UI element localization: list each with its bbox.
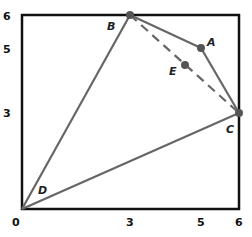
y-tick-6: 6 — [3, 10, 11, 23]
y-tick-3: 3 — [3, 107, 11, 120]
x-tick-6: 6 — [235, 216, 243, 229]
quadrilateral-diagram: B A C D E 6 5 3 0 3 5 6 — [0, 0, 252, 237]
label-e: E — [169, 65, 177, 78]
point-a — [197, 44, 205, 52]
point-e — [181, 61, 189, 69]
segment-cd — [22, 113, 239, 209]
point-c — [235, 109, 243, 117]
x-tick-5: 5 — [197, 216, 205, 229]
y-tick-5: 5 — [3, 43, 11, 56]
label-a: A — [206, 36, 216, 49]
x-tick-3: 3 — [126, 216, 134, 229]
label-c: C — [226, 123, 234, 136]
point-b — [126, 11, 134, 19]
label-d: D — [38, 184, 47, 197]
segment-ba — [130, 15, 201, 48]
segment-db — [22, 15, 130, 209]
segment-ac — [201, 48, 239, 113]
x-tick-0: 0 — [12, 216, 20, 229]
label-b: B — [107, 20, 115, 33]
